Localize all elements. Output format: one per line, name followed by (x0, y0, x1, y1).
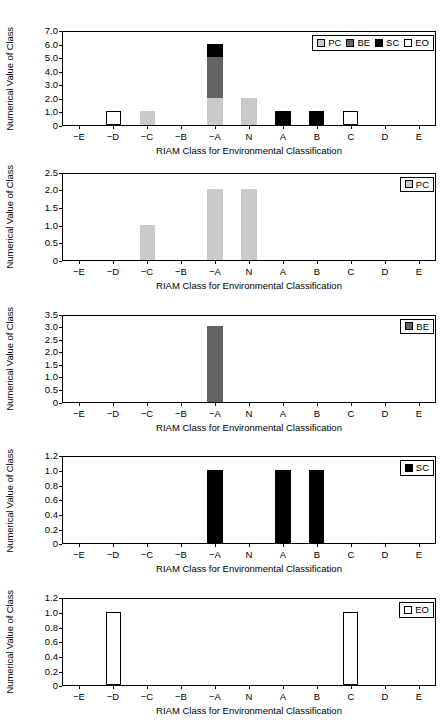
legend: EO (399, 602, 434, 618)
legend-item-sc: SC (405, 463, 429, 473)
x-tick: −D (96, 265, 130, 277)
x-tick: C (334, 265, 368, 277)
bar-segment-pc (241, 98, 257, 125)
bar-slot (300, 316, 334, 402)
bar-segment-eo (343, 111, 359, 125)
x-tick-mark (419, 544, 420, 547)
y-tick-mark (59, 544, 62, 545)
legend: PC (400, 177, 434, 193)
bar-slot (97, 174, 131, 260)
bar-segment-pc (140, 225, 156, 260)
x-tick: D (368, 130, 402, 142)
x-tick-mark (79, 544, 80, 547)
x-tick: N (232, 130, 266, 142)
x-tick-label: A (266, 407, 300, 419)
riam-bar-chart-figure: Numerical Value of Class01.02.03.04.05.0… (0, 0, 442, 723)
x-tick-label: E (402, 265, 436, 277)
legend-label: EO (415, 38, 429, 48)
x-tick-label: −A (198, 548, 232, 560)
legend-label: SC (386, 38, 399, 48)
x-tick-mark (249, 544, 250, 547)
x-tick-label: E (402, 690, 436, 702)
x-tick-label: N (232, 130, 266, 142)
x-tick: N (232, 548, 266, 560)
y-tick-label: 1.5 (45, 360, 58, 370)
y-tick-mark (59, 403, 62, 404)
x-tick: D (368, 690, 402, 702)
x-tick-label: A (266, 690, 300, 702)
bar-slot (97, 599, 131, 685)
x-axis-title: RIAM Class for Environmental Classificat… (62, 146, 436, 156)
bar-slot (97, 316, 131, 402)
x-tick-label: C (334, 407, 368, 419)
bar-slot (232, 316, 266, 402)
x-tick: E (402, 548, 436, 560)
x-tick-mark (113, 261, 114, 264)
legend-label: PC (328, 38, 341, 48)
x-tick-label: −D (96, 690, 130, 702)
bar (207, 470, 223, 543)
y-tick-label: 2.0 (45, 94, 58, 104)
x-axis-ticks: −E−D−C−B−ANABCDE (62, 407, 436, 419)
x-tick-label: −A (198, 407, 232, 419)
x-axis-title: RIAM Class for Environmental Classificat… (62, 281, 436, 291)
bar-group (63, 174, 435, 260)
x-tick-mark (113, 126, 114, 129)
bar-slot (131, 174, 165, 260)
y-tick-label: 3.5 (45, 310, 58, 320)
x-tick-mark (385, 126, 386, 129)
x-tick-label: D (368, 130, 402, 142)
legend-item-sc: SC (375, 38, 399, 48)
bar-slot (63, 457, 97, 543)
legend-item-be: BE (405, 322, 429, 332)
x-tick-label: −B (164, 690, 198, 702)
x-tick-label: −C (130, 265, 164, 277)
bar-slot (198, 457, 232, 543)
legend-label: PC (416, 180, 429, 190)
legend-swatch-sc-icon (375, 39, 383, 47)
x-tick: A (266, 130, 300, 142)
y-axis-title-text: Numerical Value of Class (5, 27, 15, 131)
y-tick-label: 2.5 (45, 168, 58, 178)
bar-slot (266, 316, 300, 402)
x-tick: −C (130, 407, 164, 419)
x-tick-label: D (368, 548, 402, 560)
x-tick-mark (181, 403, 182, 406)
y-axis-title-text: Numerical Value of Class (5, 165, 15, 269)
x-tick-label: E (402, 407, 436, 419)
x-tick: −D (96, 690, 130, 702)
bar-slot (232, 174, 266, 260)
legend-label: BE (357, 38, 370, 48)
x-tick-label: −B (164, 130, 198, 142)
x-tick-label: −E (62, 690, 96, 702)
x-tick-mark (351, 544, 352, 547)
x-axis-title: RIAM Class for Environmental Classificat… (62, 423, 436, 433)
bar (275, 111, 291, 125)
x-tick: −E (62, 407, 96, 419)
chart-panel-be: Numerical Value of Class00.51.01.52.02.5… (0, 298, 442, 440)
y-tick-label: 0.4 (45, 652, 58, 662)
y-tick-label: 0.6 (45, 496, 58, 506)
x-tick: −A (198, 265, 232, 277)
x-tick-mark (351, 126, 352, 129)
x-tick-mark (249, 261, 250, 264)
x-tick-label: B (300, 407, 334, 419)
bar-slot (300, 599, 334, 685)
y-tick-mark (59, 126, 62, 127)
bar-segment-sc (207, 44, 223, 58)
bar-slot (131, 457, 165, 543)
y-tick-label: 0 (53, 540, 58, 550)
x-tick-label: E (402, 548, 436, 560)
x-tick-label: −A (198, 130, 232, 142)
x-tick: −D (96, 130, 130, 142)
bar-slot (367, 316, 401, 402)
legend-item-be: BE (346, 38, 370, 48)
bar-segment-pc (207, 189, 223, 259)
x-tick: −E (62, 265, 96, 277)
bar-segment-pc (241, 189, 257, 259)
y-tick-label: 1.0 (45, 373, 58, 383)
x-tick-label: A (266, 265, 300, 277)
x-tick-mark (147, 686, 148, 689)
bar-slot (198, 316, 232, 402)
x-tick-label: −C (130, 690, 164, 702)
